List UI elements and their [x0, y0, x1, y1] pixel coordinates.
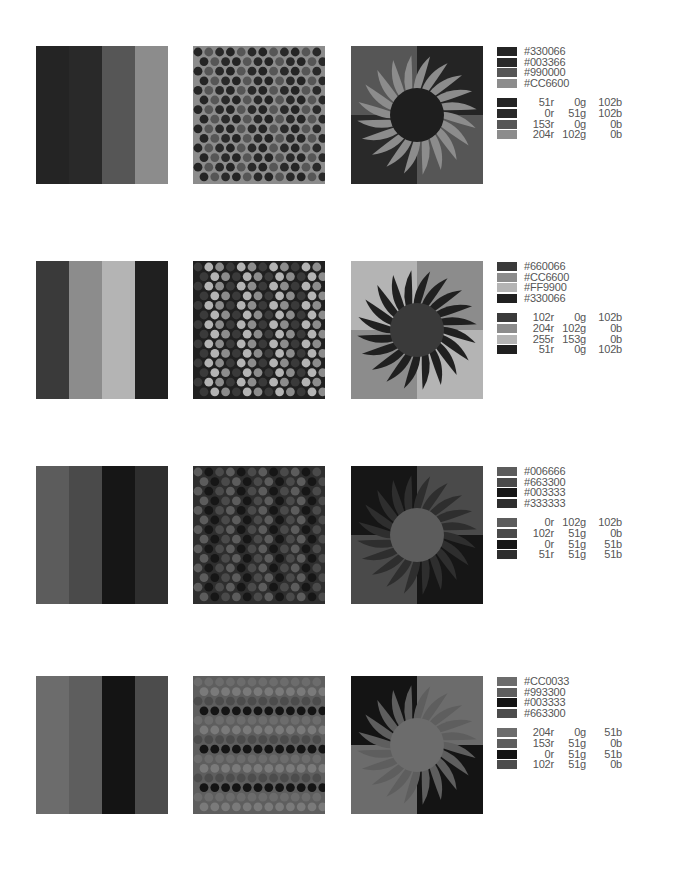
color-swatch: [497, 283, 517, 292]
palette-row-4: #CC0033 #993300 #003333 #663300 204r0g51…: [0, 676, 682, 816]
green-value: 102g: [554, 128, 586, 140]
legend-hex-row: #993300: [497, 687, 657, 698]
color-legend: #660066 #CC6600 #FF9900 #330066 102r0g10…: [497, 261, 657, 355]
color-stripe: [135, 46, 168, 184]
sun-illustration-panel: [351, 676, 483, 814]
color-swatch: [497, 335, 517, 344]
color-swatch: [497, 79, 517, 88]
blue-value: 0b: [586, 128, 622, 140]
color-stripe: [135, 466, 168, 604]
legend-rgb-row: 51r51g51b: [497, 549, 657, 560]
palette-row-3: #006666 #663300 #003333 #333333 0r102g10…: [0, 466, 682, 606]
green-value: 0g: [554, 343, 586, 355]
stripe-swatch-panel: [36, 676, 168, 814]
color-stripe: [102, 466, 135, 604]
color-swatch: [497, 68, 517, 77]
legend-hex-row: #330066: [497, 46, 657, 57]
legend-hex-row: #663300: [497, 708, 657, 719]
stripe-swatch-panel: [36, 261, 168, 399]
blue-value: 102b: [586, 343, 622, 355]
color-stripe: [69, 676, 102, 814]
color-legend: #006666 #663300 #003333 #333333 0r102g10…: [497, 466, 657, 560]
color-swatch: [497, 47, 517, 56]
sun-disc: [390, 718, 444, 772]
stripe-swatch-panel: [36, 46, 168, 184]
legend-hex-row: #003333: [497, 487, 657, 498]
color-stripe: [69, 261, 102, 399]
color-swatch: [497, 760, 517, 769]
color-swatch: [497, 550, 517, 559]
legend-rgb-row: 51r0g102b: [497, 344, 657, 355]
color-swatch: [497, 478, 517, 487]
color-legend: #330066 #003366 #990000 #CC6600 51r0g102…: [497, 46, 657, 140]
hex-label: #663300: [524, 707, 565, 719]
color-stripe: [36, 676, 69, 814]
palette-row-2: #660066 #CC6600 #FF9900 #330066 102r0g10…: [0, 261, 682, 401]
color-swatch: [497, 273, 517, 282]
color-stripe: [102, 676, 135, 814]
color-swatch: [497, 709, 517, 718]
legend-hex-row: #FF9900: [497, 282, 657, 293]
dot-pattern-panel: [193, 466, 325, 604]
color-swatch: [497, 294, 517, 303]
sun-disc: [390, 303, 444, 357]
sun-illustration-panel: [351, 261, 483, 399]
legend-hex-row: #330066: [497, 293, 657, 304]
red-value: 204r: [517, 128, 554, 140]
red-value: 102r: [517, 758, 554, 770]
hex-label: #330066: [524, 292, 565, 304]
legend-hex-row: #003333: [497, 697, 657, 708]
green-value: 51g: [554, 758, 586, 770]
sun-disc: [390, 88, 444, 142]
dot-pattern-panel: [193, 676, 325, 814]
color-swatch: [497, 313, 517, 322]
green-value: 51g: [554, 548, 586, 560]
dot-pattern-panel: [193, 261, 325, 399]
legend-rgb-row: 204r102g0b: [497, 129, 657, 140]
color-stripe: [69, 46, 102, 184]
color-swatch: [497, 130, 517, 139]
legend-hex-row: #003366: [497, 57, 657, 68]
color-swatch: [497, 739, 517, 748]
red-value: 51r: [517, 548, 554, 560]
hex-label: #CC6600: [524, 77, 569, 89]
blue-value: 51b: [586, 548, 622, 560]
color-swatch: [497, 58, 517, 67]
color-swatch: [497, 688, 517, 697]
color-swatch: [497, 120, 517, 129]
color-swatch: [497, 467, 517, 476]
legend-hex-row: #CC0033: [497, 676, 657, 687]
legend-hex-row: #CC6600: [497, 272, 657, 283]
palette-row-1: #330066 #003366 #990000 #CC6600 51r0g102…: [0, 46, 682, 186]
color-swatch: [497, 698, 517, 707]
color-stripe: [36, 46, 69, 184]
color-stripe: [102, 261, 135, 399]
color-swatch: [497, 98, 517, 107]
red-value: 51r: [517, 343, 554, 355]
color-legend: #CC0033 #993300 #003333 #663300 204r0g51…: [497, 676, 657, 770]
sun-illustration-panel: [351, 46, 483, 184]
color-swatch: [497, 677, 517, 686]
stripe-swatch-panel: [36, 466, 168, 604]
color-swatch: [497, 345, 517, 354]
color-swatch: [497, 728, 517, 737]
color-swatch: [497, 750, 517, 759]
legend-hex-row: #663300: [497, 477, 657, 488]
legend-hex-row: #990000: [497, 67, 657, 78]
dot-pattern-panel: [193, 46, 325, 184]
color-swatch: [497, 529, 517, 538]
legend-hex-row: #CC6600: [497, 78, 657, 89]
color-stripe: [135, 676, 168, 814]
color-stripe: [36, 261, 69, 399]
sun-disc: [390, 508, 444, 562]
color-swatch: [497, 262, 517, 271]
color-stripe: [102, 46, 135, 184]
color-stripe: [69, 466, 102, 604]
color-swatch: [497, 324, 517, 333]
color-swatch: [497, 488, 517, 497]
sun-illustration-panel: [351, 466, 483, 604]
color-swatch: [497, 540, 517, 549]
color-stripe: [135, 261, 168, 399]
color-swatch: [497, 518, 517, 527]
legend-hex-row: #660066: [497, 261, 657, 272]
